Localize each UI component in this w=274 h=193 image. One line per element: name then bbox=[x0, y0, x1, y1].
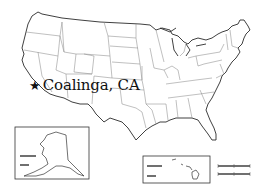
great-lakes bbox=[160, 28, 206, 56]
alaska-inset bbox=[15, 127, 89, 179]
map-canvas bbox=[0, 0, 274, 193]
city-marker: ★Coalinga, CA bbox=[29, 76, 140, 95]
state-borders bbox=[24, 22, 238, 128]
star-icon: ★ bbox=[29, 78, 41, 93]
city-label: Coalinga, CA bbox=[43, 76, 140, 94]
scale-bars bbox=[218, 164, 250, 176]
hawaii-inset bbox=[143, 156, 210, 183]
us-map: ★Coalinga, CA bbox=[0, 0, 274, 193]
